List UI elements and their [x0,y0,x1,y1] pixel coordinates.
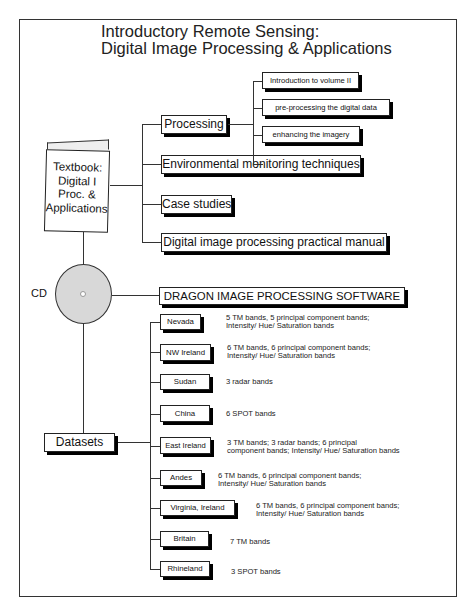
dataset-nw-ireland-desc: 6 TM bands, 6 principal component bands;… [227,344,370,360]
connector [142,124,143,242]
dataset-nevada: Nevada [160,314,201,330]
connector [142,124,162,125]
connector [142,242,162,243]
disc-hole [80,291,86,297]
textbook-label-4: Applications [45,201,107,216]
sub-pre-processing: pre-processing the digital data [262,99,390,116]
branch-case-studies: Case studies [161,195,232,214]
dataset-sudan: Sudan [160,374,210,390]
dataset-rhineland: Rhineland [160,561,210,577]
dataset-east-ireland-desc: 3 TM bands; 3 radar bands; 6 principal c… [227,439,400,455]
dragon-software-box: DRAGON IMAGE PROCESSING SOFTWARE [159,287,405,305]
diagram-title: Introductory Remote Sensing: Digital Ima… [101,23,392,57]
dataset-east-ireland: East Ireland [160,437,211,454]
connector [83,324,84,433]
dataset-virginia-ireland-desc: 6 TM bands, 6 principal component bands;… [256,502,399,518]
connector [142,204,162,205]
dataset-andes: Andes [160,470,202,486]
connector [253,164,263,165]
connector [228,124,253,125]
dataset-britain: Britain [160,531,209,547]
connector [253,81,254,165]
dataset-rhineland-desc: 3 SPOT bands [231,568,281,576]
dataset-virginia-ireland: Virginia, Ireland [160,500,235,516]
sub-introduction-volume-2: Introduction to volume II [262,72,359,89]
title-line-1: Introductory Remote Sensing: [101,23,392,40]
connector [118,442,150,443]
sub-enhancing-imagery: enhancing the imagery [262,126,360,143]
dataset-nevada-desc: 5 TM bands, 5 principal component bands;… [226,314,369,330]
dataset-britain-desc: 7 TM bands [230,538,270,546]
dataset-china: China [160,405,210,422]
book-icon: Textbook: Digital I Proc. & Applications [44,149,110,233]
branch-practical-manual: Digital image processing practical manua… [161,233,387,252]
datasets-box: Datasets [44,433,115,452]
branch-processing: Processing [161,115,227,134]
connector [112,295,160,296]
textbook-label-1: Textbook: [46,160,108,175]
dataset-nw-ireland: NW Ireland [160,344,211,361]
cd-label: CD [31,287,47,299]
dataset-andes-desc: 6 TM bands, 6 principal component bands;… [218,472,361,488]
connector [83,232,84,265]
connector [142,164,162,165]
dataset-china-desc: 6 SPOT bands [226,410,276,418]
title-line-2: Digital Image Processing & Applications [101,40,392,57]
dataset-sudan-desc: 3 radar bands [226,378,273,386]
connector [110,185,142,186]
